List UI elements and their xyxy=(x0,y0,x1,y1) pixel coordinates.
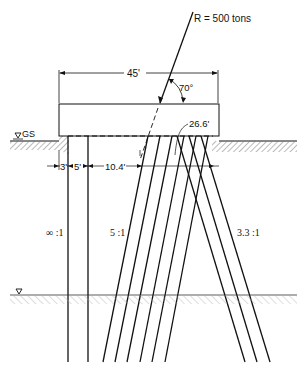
ground-surface-marker: GS xyxy=(13,129,35,139)
pile-group-diagram: GS 45' R = 500 tons 70° 26.6' xyxy=(0,0,307,371)
cap-width-label: 45' xyxy=(127,68,140,79)
dim-3-label: 3' xyxy=(60,161,67,172)
dim-10-4-label: 10.4' xyxy=(105,161,125,172)
batter-piles-3-3-1 xyxy=(177,136,270,362)
resultant-label: R = 500 tons xyxy=(194,13,251,24)
gs-label: GS xyxy=(22,129,35,139)
left-batter-label: 5 :1 xyxy=(110,227,125,238)
cap-width-dimension: 45' xyxy=(59,68,218,103)
dim-5-label: 5' xyxy=(74,161,81,172)
vertical-batter-label: ∞ :1 xyxy=(46,227,63,238)
ground-surface-right xyxy=(212,141,297,152)
dim-26-6-label: 26.6' xyxy=(189,118,209,129)
angle-label: 70° xyxy=(179,82,194,93)
right-batter-label: 3.3 :1 xyxy=(237,227,260,238)
